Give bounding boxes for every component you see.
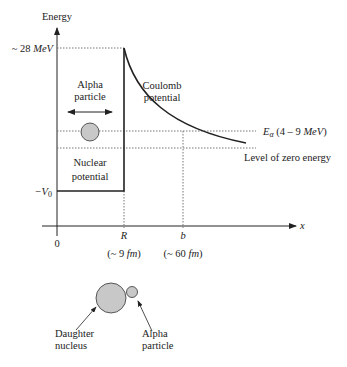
alpha-decay-potential-diagram: Energy ~ 28 MeV Alpha particle Nuclear p… <box>0 0 347 367</box>
b-value-label: (~ 60 fm) <box>164 248 203 260</box>
b-label: b <box>180 230 185 241</box>
coulomb-potential-label-2: potential <box>144 92 181 103</box>
daughter-nucleus-label-1: Daughter <box>55 328 95 339</box>
nuclear-potential-label-2: potential <box>72 171 109 182</box>
nuclear-potential-label-1: Nuclear <box>73 157 107 168</box>
coulomb-potential-curve <box>124 48 246 143</box>
r-label: R <box>120 230 128 241</box>
nuclear-potential-well <box>57 48 124 191</box>
alpha-small-label-1: Alpha <box>142 328 168 339</box>
coulomb-potential-label-1: Coulomb <box>142 80 181 91</box>
alpha-particle-label-1: Alpha <box>77 79 103 90</box>
x-axis-label: x <box>299 220 305 231</box>
zero-energy-label: Level of zero energy <box>244 152 332 163</box>
alpha-pointer-arrow <box>138 301 152 331</box>
daughter-nucleus-label-2: nucleus <box>55 340 87 351</box>
alpha-particle-circle <box>81 123 99 141</box>
origin-label: 0 <box>54 238 59 249</box>
energy-axis-label: Energy <box>42 11 73 22</box>
barrier-height-label: ~ 28 MeV <box>12 43 55 54</box>
daughter-pointer-arrow <box>76 307 96 330</box>
alpha-particle-label-2: particle <box>74 91 106 102</box>
daughter-nucleus-circle <box>96 283 126 313</box>
small-alpha-particle-circle <box>127 287 138 298</box>
alpha-small-label-2: particle <box>142 340 174 351</box>
neg-v0-label: −V0 <box>35 186 53 199</box>
e-alpha-label: Eα (4 – 9 MeV) <box>262 126 327 139</box>
r-value-label: (~ 9 fm) <box>107 248 141 260</box>
